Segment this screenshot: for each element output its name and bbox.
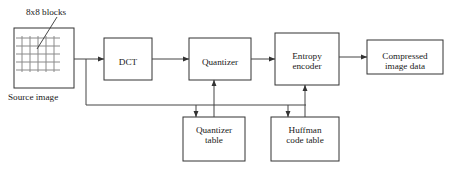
box-huffman-table — [271, 117, 339, 161]
node-boxes — [14, 28, 443, 161]
box-compressed-output — [367, 40, 443, 74]
box-quantizer-table — [183, 117, 245, 161]
diagram-canvas — [0, 0, 451, 173]
box-quantizer — [189, 38, 251, 80]
box-entropy-encoder — [275, 33, 339, 85]
box-dct — [104, 38, 152, 80]
caption-source-image: Source image — [8, 92, 58, 102]
caption-8x8-blocks: 8x8 blocks — [26, 7, 66, 17]
jpeg-encoder-diagram: DCT Quantizer Entropy encoder Compressed… — [0, 0, 451, 173]
